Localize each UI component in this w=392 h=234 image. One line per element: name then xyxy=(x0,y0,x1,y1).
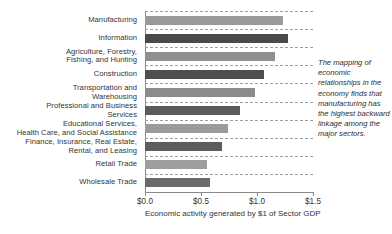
bar xyxy=(145,142,222,151)
gridline xyxy=(145,102,313,103)
category-label: Professional and Business Services xyxy=(46,102,137,119)
bar xyxy=(145,106,240,115)
category-label: Manufacturing xyxy=(88,16,137,25)
x-axis-tick-label: $0.5 xyxy=(193,197,209,206)
bar-chart: ManufacturingInformationAgriculture, For… xyxy=(0,0,392,234)
category-label-column: ManufacturingInformationAgriculture, For… xyxy=(0,11,141,192)
bar xyxy=(145,52,275,61)
gridline xyxy=(145,29,313,30)
bar xyxy=(145,124,228,133)
x-axis-tick-label: $1.5 xyxy=(305,197,321,206)
x-axis-tick-label: $1.0 xyxy=(249,197,265,206)
category-label: Agriculture, Forestry, Fishing, and Hunt… xyxy=(66,48,137,65)
gridline xyxy=(145,120,313,121)
category-label: Construction xyxy=(94,70,137,79)
x-axis-tick xyxy=(313,192,314,196)
plot-area xyxy=(145,11,313,192)
gridline xyxy=(145,174,313,175)
x-axis-title: Economic activity generated by $1 of Sec… xyxy=(145,209,313,218)
gridline xyxy=(145,156,313,157)
chart-annotation: The mapping of economic relationships in… xyxy=(318,58,390,140)
gridline xyxy=(145,83,313,84)
bar xyxy=(145,70,264,79)
category-label: Transportation and Warehousing xyxy=(73,84,137,101)
x-axis-spine xyxy=(145,192,313,193)
bar xyxy=(145,88,255,97)
category-label: Finance, Insurance, Real Estate, Rental,… xyxy=(25,138,137,155)
bar xyxy=(145,160,207,169)
gridline xyxy=(145,138,313,139)
category-label: Information xyxy=(98,34,137,43)
x-axis-tick xyxy=(257,192,258,196)
category-label: Wholesale Trade xyxy=(79,178,137,187)
category-label: Retail Trade xyxy=(95,160,137,169)
gridline xyxy=(145,11,313,12)
bar xyxy=(145,16,283,25)
bar xyxy=(145,34,288,43)
bar xyxy=(145,178,210,187)
gridline xyxy=(145,47,313,48)
x-axis-tick xyxy=(145,192,146,196)
x-axis-tick-label: $0.0 xyxy=(137,197,153,206)
gridline xyxy=(145,65,313,66)
category-label: Educational Services, Health Care, and S… xyxy=(17,120,137,137)
x-axis-tick xyxy=(201,192,202,196)
